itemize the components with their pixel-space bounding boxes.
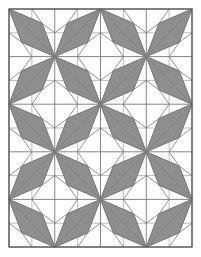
quilt-pattern (0, 0, 201, 257)
